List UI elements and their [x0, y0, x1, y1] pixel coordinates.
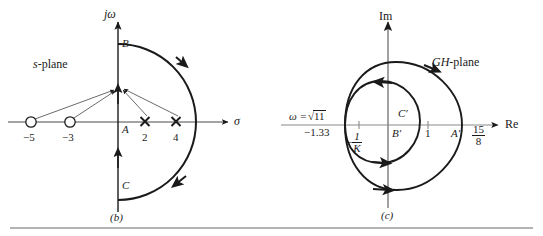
gh-plane-fifteen-eighths-label: 158: [472, 124, 485, 147]
s-plane-arc-arrow-bottom: [176, 176, 186, 184]
s-plane-vector-from-zero-minus5: [35, 90, 114, 119]
gh-plane-outer-loop: [345, 62, 462, 190]
gh-plane-point-a-prime-label: A′: [451, 128, 460, 139]
gh-plane-omega-lhs: ω =: [289, 110, 307, 122]
s-plane-point-c-label: C: [122, 180, 129, 191]
s-plane-vector-from-zero-minus3: [74, 91, 115, 118]
gh-plane-crossing-label: −1.33: [304, 127, 329, 138]
fraction-fifteen-eighths: 158: [472, 124, 485, 147]
gh-plane-tick-one-label: 1: [425, 128, 431, 139]
gh-plane-point-b-prime-label: B′: [392, 128, 401, 139]
fraction-numerator: 15: [472, 124, 485, 135]
caption-b: (b): [110, 212, 123, 223]
gh-plane-omega-radicand: 11: [313, 110, 326, 122]
fraction-numerator: 1: [352, 131, 361, 142]
s-plane-zero-marker-minus3: [65, 117, 75, 127]
gh-plane-real-axis-label: Re: [505, 118, 518, 130]
figure-root: s-plane jω σ A B C −5 −3 2 4 (b) GH-plan…: [0, 0, 543, 236]
gh-plane-point-c-prime-label: C′: [398, 108, 408, 119]
s-plane-zero-label-minus5: −5: [23, 132, 35, 143]
s-plane-arc-arrow-top: [176, 57, 184, 64]
s-plane-panel: [8, 22, 228, 212]
sqrt-icon: √11: [307, 110, 326, 122]
s-plane-vector-from-pole-2: [123, 90, 147, 116]
fraction-one-over-k: 1K: [352, 131, 361, 154]
gh-plane-title-italic: GH: [432, 55, 449, 69]
fraction-denominator: 8: [472, 135, 485, 147]
s-plane-vectors: [35, 89, 178, 119]
s-plane-zero-label-minus3: −3: [62, 132, 74, 143]
gh-plane-arrow-inner-top: [378, 82, 392, 83]
gh-plane-title-rest: -plane: [449, 55, 479, 69]
s-plane-pole-label-4: 4: [173, 132, 179, 143]
caption-c: (c): [381, 210, 393, 221]
s-plane-pole-label-2: 2: [142, 132, 148, 143]
gh-plane-arrow-inner-bottom: [372, 162, 386, 163]
s-plane-origin-label: A: [122, 124, 129, 135]
gh-plane-minus-one-over-k-label: −1K: [346, 131, 362, 154]
gh-plane-arrow-outer-bottom: [373, 189, 389, 190]
s-plane-title-rest: -plane: [38, 57, 68, 71]
gh-plane-title: GH-plane: [432, 56, 479, 68]
gh-plane-imag-axis-label: Im: [379, 10, 392, 22]
figure-canvas: [0, 0, 543, 236]
gh-plane-omega-label: ω =√11: [289, 110, 326, 122]
fraction-denominator: K: [352, 142, 361, 154]
s-plane-point-b-label: B: [122, 38, 129, 49]
s-plane-real-axis-label: σ: [234, 115, 240, 127]
s-plane-vector-from-pole-4: [124, 89, 178, 116]
s-plane-imag-axis-label: jω: [104, 8, 116, 20]
s-plane-title: s-plane: [33, 58, 68, 70]
s-plane-zero-marker-minus5: [26, 117, 36, 127]
